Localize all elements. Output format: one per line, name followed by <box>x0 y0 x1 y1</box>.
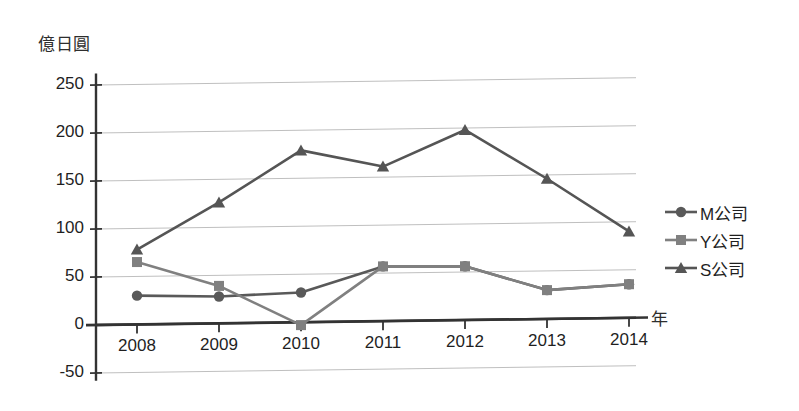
data-point-marker-square <box>676 235 686 245</box>
data-point-marker-triangle <box>295 144 307 155</box>
x-tick-label: 2014 <box>597 330 661 350</box>
x-axis-unit-label: 年 <box>651 305 668 330</box>
data-point-marker-triangle <box>459 124 471 135</box>
legend-item[interactable]: S公司 <box>664 254 792 282</box>
data-point-marker-circle <box>676 207 686 217</box>
data-point-marker-square <box>214 281 224 291</box>
y-tick-label: 0 <box>32 314 84 334</box>
gridline <box>96 366 636 373</box>
legend-item-label: Y公司 <box>700 228 745 253</box>
data-point-marker-square <box>296 320 306 330</box>
x-tick-label: 2008 <box>105 336 169 356</box>
x-tick-label: 2012 <box>433 332 497 352</box>
x-tick-label: 2010 <box>269 334 333 354</box>
data-point-marker-triangle <box>213 196 225 207</box>
x-tick-label: 2009 <box>187 335 251 355</box>
x-tick-label: 2011 <box>351 333 415 353</box>
legend-item-label: M公司 <box>700 200 748 225</box>
data-point-marker-circle <box>214 291 224 301</box>
legend-marker-triangle-icon <box>664 260 698 276</box>
gridline <box>96 78 636 85</box>
y-axis-unit-label: 億日圓 <box>38 30 91 55</box>
x-axis-line <box>86 318 648 326</box>
gridline <box>96 174 636 181</box>
legend-item-label: S公司 <box>700 256 745 281</box>
y-tick-label: 150 <box>32 170 84 190</box>
gridline <box>96 126 636 133</box>
data-point-marker-circle <box>296 287 306 297</box>
data-point-marker-square <box>132 257 142 267</box>
y-tick-label: 50 <box>32 266 84 286</box>
y-tick-label: 200 <box>32 122 84 142</box>
legend-marker-circle-icon <box>664 204 698 220</box>
data-point-marker-square <box>460 261 470 271</box>
legend-marker-square-icon <box>664 232 698 248</box>
data-point-marker-square <box>624 279 634 289</box>
y-tick-label: -50 <box>32 362 84 382</box>
legend-item[interactable]: Y公司 <box>664 226 792 254</box>
data-point-marker-triangle <box>131 244 143 255</box>
data-point-marker-circle <box>132 290 142 300</box>
data-point-marker-triangle <box>623 225 635 236</box>
data-point-marker-square <box>542 285 552 295</box>
line-chart: 億日圓 年 250200150100500-50 200820092010201… <box>0 0 799 411</box>
legend-item[interactable]: M公司 <box>664 198 792 226</box>
series-line <box>137 130 629 250</box>
y-tick-label: 100 <box>32 218 84 238</box>
data-point-marker-square <box>378 261 388 271</box>
x-tick-label: 2013 <box>515 331 579 351</box>
chart-legend: M公司Y公司S公司 <box>664 198 792 282</box>
y-tick-label: 250 <box>32 74 84 94</box>
